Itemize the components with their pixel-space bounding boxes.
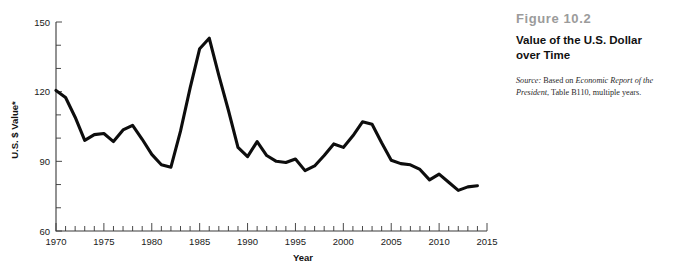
- x-axis-ticks: [56, 223, 487, 231]
- figure-title-line-2: over Time: [516, 49, 570, 61]
- x-tick-label: 2015: [476, 236, 497, 247]
- x-axis-title: Year: [293, 252, 313, 263]
- y-axis-tick-labels: 6090120150: [34, 17, 50, 237]
- x-tick-label: 1970: [45, 236, 66, 247]
- source-text-1: Based on: [541, 76, 575, 85]
- x-tick-label: 1975: [93, 236, 114, 247]
- y-tick-label: 120: [34, 86, 50, 97]
- dollar-value-line: [56, 38, 477, 190]
- chart-container: 6090120150 19701975198019851990199520002…: [0, 0, 500, 267]
- figure-title: Value of the U.S. Dollar over Time: [516, 33, 676, 63]
- x-tick-label: 2010: [429, 236, 450, 247]
- figure-page: 6090120150 19701975198019851990199520002…: [0, 0, 679, 267]
- y-tick-label: 90: [39, 156, 50, 167]
- line-chart: 6090120150 19701975198019851990199520002…: [0, 0, 500, 267]
- x-tick-label: 1980: [141, 236, 162, 247]
- x-tick-label: 1990: [237, 236, 258, 247]
- x-tick-label: 2005: [381, 236, 402, 247]
- y-tick-label: 60: [39, 226, 50, 237]
- y-axis-title: U.S. $ Value*: [9, 101, 20, 159]
- x-tick-label: 1985: [189, 236, 210, 247]
- axis-lines: [56, 22, 487, 231]
- figure-source: Source: Based on Economic Report of the …: [516, 75, 676, 99]
- source-text-2: , Table B110, multiple years.: [547, 88, 641, 97]
- y-tick-label: 150: [34, 17, 50, 28]
- x-axis-tick-labels: 1970197519801985199019952000200520102015: [45, 236, 497, 247]
- source-label: Source:: [516, 76, 541, 85]
- figure-number: Figure 10.2: [516, 12, 676, 26]
- figure-title-line-1: Value of the U.S. Dollar: [516, 34, 642, 46]
- y-axis-ticks: [56, 22, 62, 231]
- figure-caption-block: Figure 10.2 Value of the U.S. Dollar ove…: [516, 12, 676, 98]
- x-tick-label: 1995: [285, 236, 306, 247]
- x-tick-label: 2000: [333, 236, 354, 247]
